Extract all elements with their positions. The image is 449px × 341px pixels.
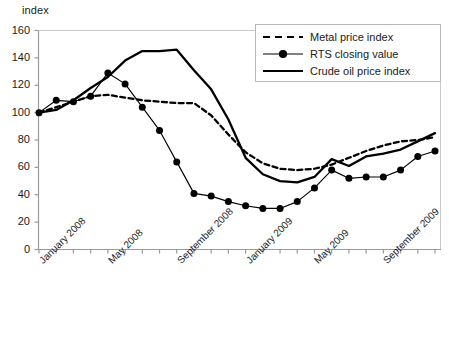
data-point-marker [190,190,197,197]
data-point-marker [277,205,284,212]
y-axis-tick-label: 40 [2,188,30,200]
y-axis-tick-label: 160 [2,24,30,36]
y-axis-tick-label: 0 [2,243,30,255]
data-point-marker [311,184,318,191]
data-point-marker [225,198,232,205]
y-axis-tick-label: 100 [2,106,30,118]
line-with-dot-marker-icon [262,47,304,61]
data-point-marker [345,175,352,182]
data-point-marker [397,167,404,174]
y-axis-tick-label: 80 [2,133,30,145]
legend-item-rts-closing-value: RTS closing value [262,46,398,62]
y-axis-tick-label: 140 [2,51,30,63]
data-point-marker [208,193,215,200]
y-axis-tick-label: 120 [2,78,30,90]
data-point-marker [414,153,421,160]
data-point-marker [122,80,129,87]
legend-label: Metal price index [310,31,393,43]
legend-item-crude-oil-price-index: Crude oil price index [262,63,410,79]
y-axis-tick-label: 60 [2,160,30,172]
legend-label: RTS closing value [310,48,398,60]
data-point-marker [294,198,301,205]
data-point-marker [432,147,439,154]
solid-line-icon [262,64,304,78]
data-point-marker [139,104,146,111]
chart-container: index 020406080100120140160 January 2008… [0,0,449,341]
data-point-marker [242,202,249,209]
data-point-marker [173,158,180,165]
data-point-marker [259,205,266,212]
series-line [39,95,435,170]
data-point-marker [380,173,387,180]
data-point-marker [156,127,163,134]
legend-label: Crude oil price index [310,65,410,77]
y-axis-tick-label: 20 [2,215,30,227]
data-point-marker [53,97,60,104]
data-point-marker [328,167,335,174]
data-point-marker [363,173,370,180]
data-point-marker [87,93,94,100]
chart-legend: Metal price index RTS closing value Crud… [255,24,441,82]
legend-item-metal-price-index: Metal price index [262,29,393,45]
dashed-line-icon [262,30,304,44]
series-metal-price-index [39,95,435,170]
x-axis-tick-marks [39,250,435,254]
